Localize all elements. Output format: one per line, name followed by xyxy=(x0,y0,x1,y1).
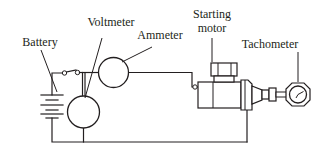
starter-solenoid xyxy=(211,63,237,76)
voltmeter-circle-icon xyxy=(68,96,100,128)
label-starting-motor-line2: motor xyxy=(198,21,227,35)
leader-battery xyxy=(41,50,57,92)
label-voltmeter: Voltmeter xyxy=(87,15,134,29)
circuit-diagram-canvas: Battery Voltmeter Ammeter Starting motor… xyxy=(0,0,315,155)
label-ammeter: Ammeter xyxy=(137,28,182,42)
ammeter-circle-icon xyxy=(99,58,129,88)
label-battery: Battery xyxy=(22,35,57,49)
tach-adapter-block xyxy=(269,88,276,101)
starter-nose-cone xyxy=(252,86,262,104)
diagram-labels: Battery Voltmeter Ammeter Starting motor… xyxy=(22,7,298,51)
tachometer-symbol xyxy=(262,83,310,106)
switch-blade xyxy=(66,70,76,72)
starter-terminal-dot-icon xyxy=(193,85,197,89)
label-tachometer: Tachometer xyxy=(242,37,298,51)
ammeter-symbol xyxy=(99,58,129,88)
solenoid-base xyxy=(214,76,234,82)
label-starting-motor-line1: Starting xyxy=(193,7,231,21)
circuit-diagram-svg: Battery Voltmeter Ammeter Starting motor… xyxy=(0,0,315,155)
tach-coupling-block xyxy=(262,90,269,99)
battery-symbol xyxy=(41,95,63,118)
starter-drive-housing xyxy=(241,80,252,110)
switch-contact-left-icon xyxy=(62,71,66,75)
starting-motor-symbol xyxy=(198,63,262,110)
leader-ammeter xyxy=(122,47,152,62)
wire-ammeter-to-starter xyxy=(126,73,198,88)
voltmeter-symbol xyxy=(68,96,100,128)
starter-body xyxy=(198,82,241,108)
